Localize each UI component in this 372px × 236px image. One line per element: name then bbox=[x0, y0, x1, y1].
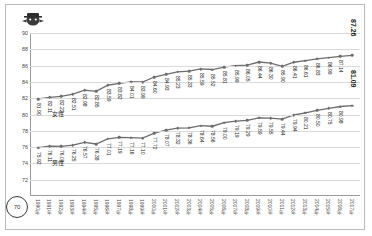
gridline bbox=[30, 131, 360, 132]
data-point bbox=[246, 64, 249, 67]
y-axis-tick-label: 74 bbox=[22, 160, 28, 166]
x-axis-tick-label: 2014年 bbox=[314, 199, 321, 215]
data-point bbox=[176, 127, 179, 130]
data-point-label: 76.25 bbox=[71, 149, 77, 162]
data-point-label: 78.56 bbox=[210, 130, 216, 143]
data-point bbox=[141, 81, 144, 84]
data-point bbox=[188, 70, 191, 73]
data-point bbox=[48, 96, 51, 99]
data-point-label: 77.19 bbox=[117, 141, 123, 154]
x-axis-tick-label: 1991年 bbox=[46, 199, 53, 215]
data-point-label: 86.99 bbox=[327, 62, 333, 75]
data-point-label: 87.14 bbox=[338, 60, 344, 73]
y-axis-tick-label: 88 bbox=[22, 46, 28, 52]
y-axis-tick-label: 80 bbox=[22, 112, 28, 118]
data-point bbox=[95, 143, 98, 146]
x-axis-tick-label: 1995年 bbox=[93, 199, 100, 215]
data-point bbox=[106, 138, 109, 141]
y-axis-tick-label: 78 bbox=[22, 128, 28, 134]
data-point bbox=[269, 117, 272, 120]
data-point bbox=[141, 137, 144, 140]
data-point bbox=[118, 82, 121, 85]
data-point bbox=[234, 120, 237, 123]
data-point-label: 77.16 bbox=[129, 142, 135, 155]
data-point bbox=[304, 59, 307, 62]
data-point-label: 78.32 bbox=[175, 132, 181, 145]
data-point bbox=[269, 62, 272, 65]
data-point bbox=[153, 76, 156, 79]
data-point bbox=[339, 55, 342, 58]
x-axis-tick-label: 2009年 bbox=[255, 199, 262, 215]
x-axis-tick-label: 2013年 bbox=[302, 199, 309, 215]
gridline bbox=[30, 98, 360, 99]
data-point-label: 82.85 bbox=[94, 95, 100, 108]
data-point bbox=[327, 56, 330, 59]
data-point-label: 77.01 bbox=[106, 143, 112, 156]
data-point-label: 86.44 bbox=[257, 66, 263, 79]
data-point-label: 76.57 bbox=[82, 146, 88, 159]
data-point bbox=[37, 98, 40, 101]
data-point-label: 85.81 bbox=[222, 71, 228, 84]
y-axis-tick-label: 90 bbox=[22, 30, 28, 36]
x-axis-tick-label: 1993年 bbox=[69, 199, 76, 215]
data-point bbox=[60, 145, 63, 148]
data-point-label: 85.23 bbox=[175, 76, 181, 89]
gridline bbox=[30, 33, 360, 34]
x-axis-tick-label: 2005年 bbox=[209, 199, 216, 215]
gridline bbox=[30, 147, 360, 148]
data-point-label: 85.90 bbox=[280, 70, 286, 83]
data-point-label: 79.94 bbox=[292, 119, 298, 132]
gridline bbox=[30, 82, 360, 83]
data-point-label: 78.64 bbox=[199, 130, 205, 143]
gridline bbox=[30, 66, 360, 67]
gridline bbox=[30, 180, 360, 181]
data-point bbox=[281, 118, 284, 121]
series-label-male: 男性 bbox=[52, 158, 64, 167]
y-axis-tick-label: 86 bbox=[22, 63, 28, 69]
data-point-label: 78.36 bbox=[187, 132, 193, 145]
data-point bbox=[223, 66, 226, 69]
x-axis-tick-label: 2000年 bbox=[151, 199, 158, 215]
data-point bbox=[60, 95, 63, 98]
data-point-label: 86.41 bbox=[292, 66, 298, 79]
data-point-label: 78.07 bbox=[164, 134, 170, 147]
data-point bbox=[106, 84, 109, 87]
data-point-label: 81.09 bbox=[350, 70, 357, 88]
data-point-label: 86.61 bbox=[303, 65, 309, 78]
data-point bbox=[165, 73, 168, 76]
data-point bbox=[72, 144, 75, 147]
gridline bbox=[30, 115, 360, 116]
data-point bbox=[83, 141, 86, 144]
data-point bbox=[130, 136, 133, 139]
gridline bbox=[30, 163, 360, 164]
data-point-label: 79.00 bbox=[222, 127, 228, 140]
data-point bbox=[246, 119, 249, 122]
data-point bbox=[223, 121, 226, 124]
data-point bbox=[339, 105, 342, 108]
x-axis-tick-label: 1994年 bbox=[81, 199, 88, 215]
mascot-logo-icon bbox=[20, 9, 46, 29]
data-point-label: 79.19 bbox=[234, 125, 240, 138]
data-point bbox=[95, 90, 98, 93]
data-point-label: 86.83 bbox=[315, 63, 321, 76]
data-point bbox=[281, 65, 284, 68]
data-point bbox=[351, 54, 354, 57]
y-axis-tick-label: 76 bbox=[22, 144, 28, 150]
x-axis-tick-label: 2006年 bbox=[221, 199, 228, 215]
data-point bbox=[176, 71, 179, 74]
data-point bbox=[153, 132, 156, 135]
data-point bbox=[165, 129, 168, 132]
data-point-label: 79.29 bbox=[245, 124, 251, 137]
data-point-label: 80.50 bbox=[315, 114, 321, 127]
data-point-label: 84.93 bbox=[164, 78, 170, 91]
chart-page: 70 727476788082848688901990年1991年1992年19… bbox=[0, 0, 372, 236]
plot-area: 727476788082848688901990年1991年1992年1993年… bbox=[30, 33, 360, 196]
data-point bbox=[258, 61, 261, 64]
data-point-label: 85.59 bbox=[199, 73, 205, 86]
x-axis-tick-label: 1997年 bbox=[116, 199, 123, 215]
data-point bbox=[316, 109, 319, 112]
data-point-label: 77.72 bbox=[152, 137, 158, 150]
data-point bbox=[200, 68, 203, 71]
x-axis-tick-label: 2008年 bbox=[244, 199, 251, 215]
data-point-label: 85.33 bbox=[187, 75, 193, 88]
